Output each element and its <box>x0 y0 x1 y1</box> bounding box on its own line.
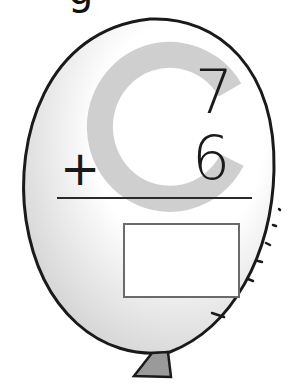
balloon-worksheet: g 7 + 6 <box>0 0 293 390</box>
balloon-knot <box>134 352 171 377</box>
addend-2: 6 <box>192 128 230 188</box>
addend-1: 7 <box>195 62 233 122</box>
plus-sign: + <box>60 144 100 192</box>
balloon-illustration <box>0 0 293 390</box>
answer-box[interactable] <box>123 223 240 298</box>
